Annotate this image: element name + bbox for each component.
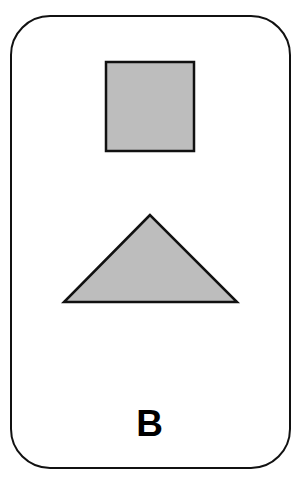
card-label: B	[0, 402, 299, 446]
square-shape	[106, 62, 194, 151]
triangle-shape	[64, 215, 237, 302]
